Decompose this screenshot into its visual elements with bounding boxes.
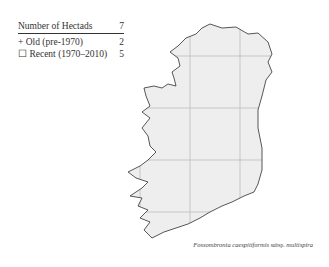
ireland-map xyxy=(0,0,329,267)
species-caption: Fossombronia caespitiformis subsp. multi… xyxy=(193,241,313,248)
